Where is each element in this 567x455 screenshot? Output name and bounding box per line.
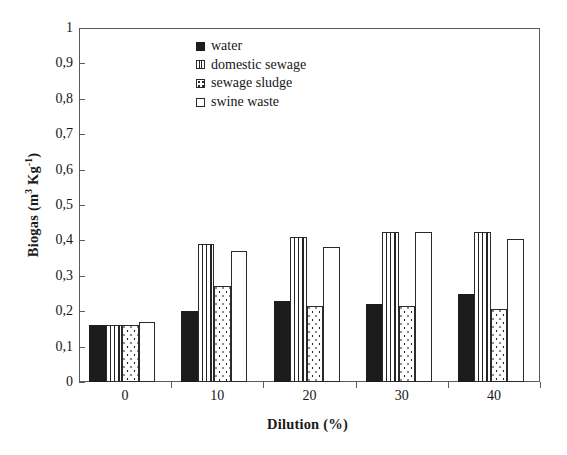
y-tick-label: 0	[13, 375, 73, 389]
bar-dotted-40	[491, 309, 508, 382]
y-tick-label: 0,1	[13, 340, 73, 354]
x-tick-label: 10	[187, 388, 247, 404]
y-tick-mark	[79, 28, 85, 29]
legend-item-solid-black: water	[196, 37, 306, 56]
legend-swatch-icon	[196, 42, 205, 51]
bar-vertical-lines-0	[106, 325, 123, 382]
y-tick-label: 0,4	[13, 233, 73, 247]
bar-dotted-10	[214, 286, 231, 382]
legend-item-empty-white: swine waste	[196, 93, 306, 112]
y-tick-label: 0,8	[13, 92, 73, 106]
legend-item-dotted: sewage sludge	[196, 74, 306, 93]
legend-swatch-icon	[196, 79, 205, 88]
x-tick-mark	[263, 382, 264, 388]
x-axis-title: Dilution (%)	[75, 416, 540, 433]
y-tick-mark	[79, 63, 85, 64]
bar-empty-white-10	[231, 251, 248, 382]
legend-swatch-icon	[196, 60, 205, 69]
y-tick-mark	[79, 170, 85, 171]
y-tick-label: 0,5	[13, 198, 73, 212]
y-axis-title-end: )	[25, 153, 41, 158]
bar-solid-black-10	[181, 311, 198, 382]
x-tick-label: 0	[95, 388, 155, 404]
bar-empty-white-30	[415, 232, 432, 382]
y-tick-label: 0,3	[13, 269, 73, 283]
bar-vertical-lines-10	[198, 244, 215, 382]
x-tick-mark	[171, 382, 172, 388]
x-tick-label: 40	[464, 388, 524, 404]
y-tick-label: 0,9	[13, 56, 73, 70]
chart-legend: waterdomestic sewagesewage sludgeswine w…	[196, 37, 306, 111]
y-tick-mark	[79, 240, 85, 241]
bar-vertical-lines-30	[382, 232, 399, 382]
x-tick-label: 30	[372, 388, 432, 404]
y-axis-title-sup-m3: 3	[24, 189, 34, 194]
bar-dotted-0	[122, 325, 139, 382]
y-tick-mark	[79, 205, 85, 206]
legend-item-label: domestic sewage	[211, 56, 306, 75]
y-tick-mark	[79, 382, 85, 383]
bar-empty-white-20	[323, 247, 340, 382]
legend-item-label: swine waste	[211, 93, 279, 112]
legend-item-vertical-lines: domestic sewage	[196, 56, 306, 75]
bar-solid-black-30	[366, 304, 383, 382]
x-tick-label: 20	[280, 388, 340, 404]
y-tick-label: 0,7	[13, 127, 73, 141]
biogas-bar-chart-figure: Biogas (m3 Kg-1) 00,10,20,30,40,50,60,70…	[0, 0, 567, 455]
x-tick-mark	[448, 382, 449, 388]
bar-solid-black-0	[89, 325, 106, 382]
legend-swatch-icon	[196, 98, 205, 107]
legend-item-label: water	[211, 37, 242, 56]
x-tick-mark	[540, 382, 541, 388]
bar-solid-black-40	[458, 294, 475, 383]
y-tick-mark	[79, 99, 85, 100]
y-tick-label: 1	[13, 21, 73, 35]
bar-vertical-lines-20	[290, 237, 307, 382]
y-tick-mark	[79, 134, 85, 135]
y-tick-mark	[79, 311, 85, 312]
legend-item-label: sewage sludge	[211, 74, 292, 93]
y-tick-mark	[79, 347, 85, 348]
bar-empty-white-0	[139, 322, 156, 382]
bar-vertical-lines-40	[474, 232, 491, 382]
y-tick-label: 0,2	[13, 304, 73, 318]
bar-empty-white-40	[507, 239, 524, 382]
bar-dotted-30	[399, 306, 416, 382]
y-tick-mark	[79, 276, 85, 277]
x-tick-mark	[356, 382, 357, 388]
bar-solid-black-20	[274, 301, 291, 382]
bar-dotted-20	[307, 306, 324, 382]
y-tick-label: 0,6	[13, 163, 73, 177]
